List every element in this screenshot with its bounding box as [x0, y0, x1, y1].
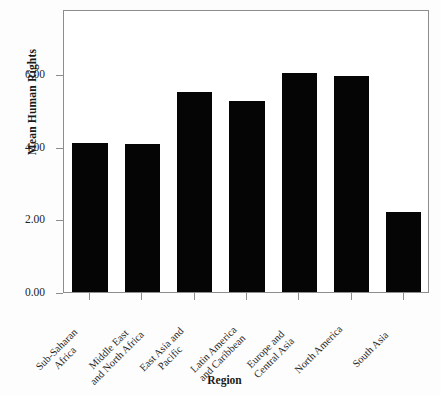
- bar: [177, 92, 212, 292]
- x-tick-mark: [141, 293, 142, 300]
- y-tick-label: 4.00: [1, 142, 45, 154]
- x-tick-mark: [298, 293, 299, 300]
- x-tick-mark: [89, 293, 90, 300]
- bar: [282, 73, 317, 293]
- y-tick-label: 6.00: [1, 69, 45, 81]
- y-tick-label: 2.00: [1, 214, 45, 226]
- y-tick-label: 0.00: [1, 287, 45, 299]
- y-tick-mark: [56, 293, 63, 294]
- bar-series: [64, 11, 428, 292]
- x-tick-mark: [351, 293, 352, 300]
- figure-bottom-margin: [0, 396, 441, 402]
- x-tick-mark: [246, 293, 247, 300]
- bar: [334, 76, 369, 292]
- y-axis-title: Mean Human Rights: [26, 12, 38, 192]
- x-tick-mark: [403, 293, 404, 300]
- y-tick-mark: [56, 220, 63, 221]
- bar-chart-figure: Mean Human Rights 0.002.004.006.00 Sub-S…: [0, 0, 441, 402]
- bar: [229, 101, 264, 292]
- plot-area: [63, 10, 429, 293]
- bar: [72, 143, 107, 292]
- x-axis-title-wrap: Region: [0, 374, 441, 386]
- x-tick-mark: [194, 293, 195, 300]
- y-tick-mark: [56, 148, 63, 149]
- bar: [125, 144, 160, 292]
- bar: [386, 212, 421, 292]
- y-tick-mark: [56, 75, 63, 76]
- x-axis-title: Region: [207, 374, 242, 386]
